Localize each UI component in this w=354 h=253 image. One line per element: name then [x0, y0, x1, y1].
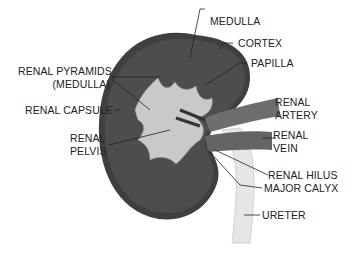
label-renal-capsule: RENAL CAPSULE [25, 104, 113, 116]
label-major-calyx: MAJOR CALYX [264, 182, 338, 194]
kidney-diagram: MEDULLA CORTEX PAPILLA RENAL PYRAMIDS (M… [0, 0, 354, 253]
label-renal-pelvis: RENAL [70, 132, 106, 144]
label-renal-hilus: RENAL HILUS [268, 169, 338, 181]
label-renal-artery: RENAL [275, 96, 311, 108]
renal-vein-shape [205, 131, 272, 152]
label-renal-pyramids-medulla: (MEDULLA) [18, 78, 110, 90]
label-ureter: URETER [262, 209, 306, 221]
label-renal-pyramids: RENAL PYRAMIDS [18, 65, 110, 77]
label-papilla: PAPILLA [251, 57, 294, 69]
label-medulla: MEDULLA [210, 15, 260, 27]
label-renal-vein-2: VEIN [273, 142, 298, 154]
label-renal-vein: RENAL [273, 129, 309, 141]
label-renal-pelvis-2: PELVIS [70, 145, 107, 157]
label-renal-artery-2: ARTERY [275, 109, 318, 121]
label-cortex: CORTEX [238, 37, 282, 49]
